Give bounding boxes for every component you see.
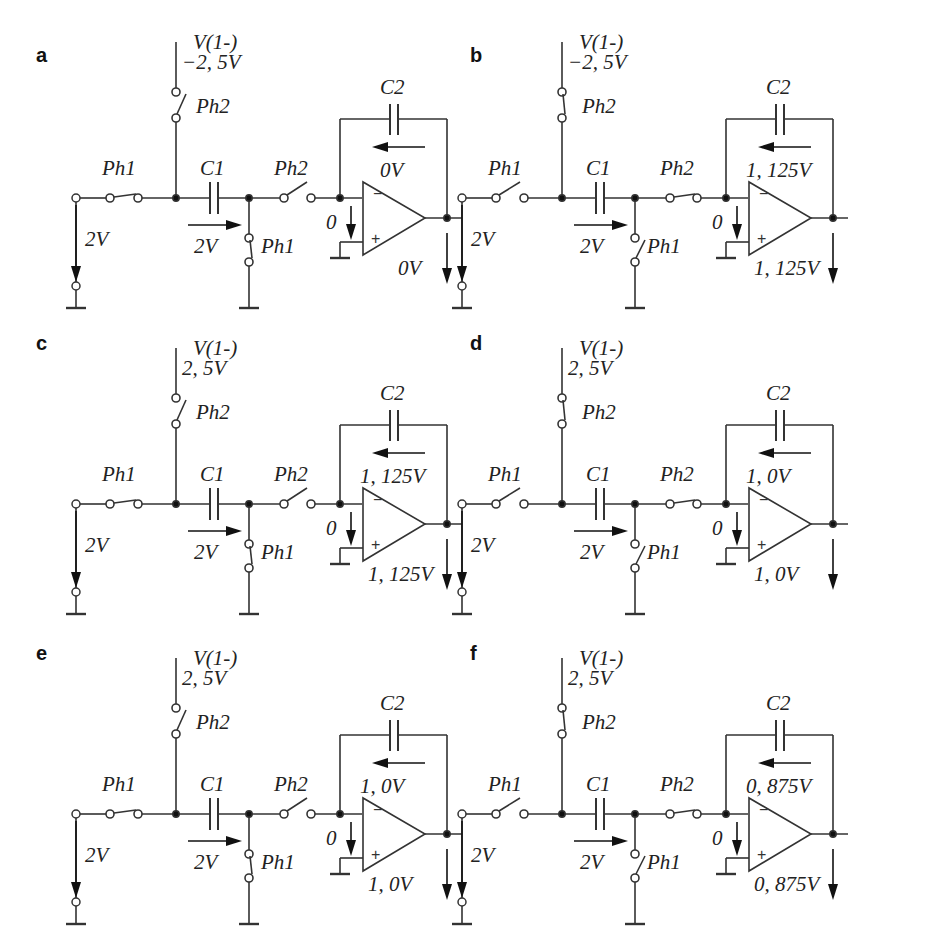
c1-capacitor [596, 488, 604, 520]
vc1-label: 2V [580, 852, 603, 873]
ph2-series-label: Ph2 [660, 774, 694, 795]
c1-capacitor [596, 182, 604, 214]
c2-label: C2 [766, 693, 791, 714]
vc1-arrow [574, 526, 628, 536]
input-terminal-circle [72, 500, 80, 508]
output-node [830, 521, 836, 527]
ph2-ref-label: Ph2 [196, 402, 230, 423]
ph1-shunt-label: Ph1 [261, 236, 295, 257]
vc1-arrow [574, 220, 628, 230]
ground-terminal-circle [458, 898, 466, 906]
input-terminal-circle [458, 194, 466, 202]
ph2-ref-label: Ph2 [196, 96, 230, 117]
c2-capacitor [776, 410, 784, 441]
output-node [830, 831, 836, 837]
junction-node [246, 195, 252, 201]
ph2-series-switch [666, 194, 701, 202]
vc2-arrow [758, 758, 811, 768]
inverting-node [337, 811, 343, 817]
vc1-arrow [574, 836, 628, 846]
vin-label: 2V [471, 845, 494, 866]
c1-label: C1 [586, 774, 611, 795]
junction-node [246, 501, 252, 507]
ground-terminal-circle [72, 898, 80, 906]
opamp-plus-sign: + [757, 847, 766, 863]
vin-label: 2V [471, 229, 494, 250]
junction-node [632, 811, 638, 817]
junction-node [173, 811, 179, 817]
ph1-shunt-label: Ph1 [647, 236, 681, 257]
vin-label: 2V [85, 229, 108, 250]
ph1-shunt-label: Ph1 [647, 852, 681, 873]
ph1-shunt-switch [245, 540, 253, 572]
junction-node [559, 501, 565, 507]
ph2-series-label: Ph2 [660, 158, 694, 179]
ph1-series-switch [106, 500, 142, 508]
ph2-ref-label: Ph2 [196, 712, 230, 733]
ph1-shunt-switch [245, 234, 253, 266]
ph2-ref-label: Ph2 [582, 712, 616, 733]
vc1-label: 2V [580, 236, 603, 257]
vinv-label: 0 [326, 828, 337, 849]
input-terminal-circle [458, 500, 466, 508]
vref-value: 2, 5V [568, 668, 612, 689]
vin-arrow [457, 205, 467, 282]
input-terminal-circle [72, 194, 80, 202]
ph1-series-label: Ph1 [488, 464, 522, 485]
opamp-minus-sign: − [373, 802, 382, 818]
inverting-node [723, 501, 729, 507]
c2-label: C2 [766, 383, 791, 404]
c2-capacitor [776, 720, 784, 751]
ph2-reference-switch [172, 88, 186, 122]
vin-arrow [71, 205, 81, 282]
opamp-minus-sign: − [373, 186, 382, 202]
opamp-minus-sign: − [759, 492, 768, 508]
vref-value: 2, 5V [568, 358, 612, 379]
vout-arrow [828, 849, 838, 900]
vc1-label: 2V [194, 542, 217, 563]
opamp [716, 488, 848, 564]
ph2-reference-switch [558, 394, 566, 428]
junction-node [246, 811, 252, 817]
c1-capacitor [596, 798, 604, 830]
c2-label: C2 [766, 77, 791, 98]
inverting-node [337, 501, 343, 507]
ph1-series-switch [492, 798, 528, 818]
ph2-ref-label: Ph2 [582, 96, 616, 117]
junction-node [173, 195, 179, 201]
ph2-series-label: Ph2 [274, 774, 308, 795]
ph1-series-label: Ph1 [488, 774, 522, 795]
opamp-plus-sign: + [371, 537, 380, 553]
vinv-arrow [346, 206, 356, 240]
ph1-series-label: Ph1 [488, 158, 522, 179]
c1-capacitor [210, 488, 218, 520]
ph2-series-label: Ph2 [660, 464, 694, 485]
ph1-shunt-switch [631, 850, 645, 882]
ph2-series-switch [280, 798, 315, 818]
vin-label: 2V [471, 535, 494, 556]
c1-label: C1 [200, 464, 225, 485]
ph1-series-label: Ph1 [102, 158, 136, 179]
vinv-arrow [732, 512, 742, 546]
opamp-minus-sign: − [759, 186, 768, 202]
ph2-series-switch [666, 810, 701, 818]
vc1-label: 2V [194, 236, 217, 257]
opamp-plus-sign: + [757, 537, 766, 553]
vc2-label: 0, 875V [746, 776, 811, 797]
opamp-minus-sign: − [759, 802, 768, 818]
vout-arrow [828, 539, 838, 590]
c1-capacitor [210, 182, 218, 214]
vout-label: 0, 875V [754, 874, 819, 895]
ph1-series-switch [492, 488, 528, 508]
ph1-series-switch [492, 182, 528, 202]
c1-label: C1 [200, 774, 225, 795]
vin-label: 2V [85, 535, 108, 556]
vin-label: 2V [85, 845, 108, 866]
vc2-label: 1, 125V [746, 160, 811, 181]
ph2-series-switch [666, 500, 701, 508]
vin-arrow [71, 511, 81, 588]
vref-value: −2, 5V [182, 52, 241, 73]
c1-label: C1 [200, 158, 225, 179]
ground-terminal-circle [458, 282, 466, 290]
vinv-label: 0 [326, 518, 337, 539]
